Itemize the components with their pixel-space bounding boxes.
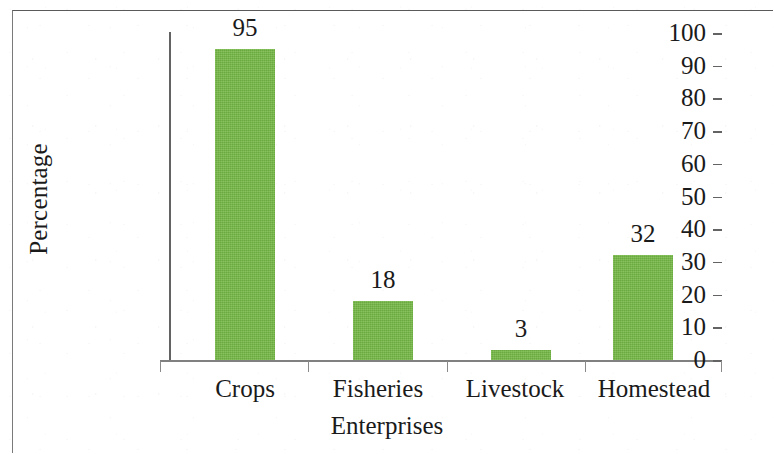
y-tick-mark xyxy=(713,98,722,100)
x-tick-mark-start xyxy=(160,361,161,372)
bar-fisheries[interactable] xyxy=(353,301,413,360)
bar-chart: Percentage 100 90 80 70 60 50 40 xyxy=(0,0,774,454)
x-category-label-homestead: Homestead xyxy=(580,374,728,404)
x-tick-mark-2 xyxy=(447,361,448,372)
y-tick-mark xyxy=(713,197,722,199)
x-tick-mark-1 xyxy=(308,361,309,372)
y-tick-mark xyxy=(713,262,722,264)
y-tick-mark xyxy=(713,33,722,35)
bar-value-livestock: 3 xyxy=(491,315,551,343)
x-category-label-crops: Crops xyxy=(175,374,315,404)
y-axis-title: Percentage xyxy=(25,119,53,279)
x-category-label-fisheries: Fisheries xyxy=(308,374,448,404)
y-tick-label: 70 xyxy=(646,116,706,146)
bar-crops[interactable] xyxy=(215,49,275,360)
bar-value-fisheries: 18 xyxy=(353,266,413,294)
y-tick-mark xyxy=(713,229,722,231)
y-tick-label: 100 xyxy=(646,18,706,48)
x-axis-line xyxy=(160,360,722,362)
x-axis-title: Enterprises xyxy=(0,412,774,440)
y-tick-mark xyxy=(713,327,722,329)
y-tick-mark xyxy=(713,131,722,133)
x-tick-mark-end xyxy=(721,361,722,372)
bar-homestead[interactable] xyxy=(613,255,673,360)
y-tick-label: 60 xyxy=(646,149,706,179)
y-tick-label: 90 xyxy=(646,51,706,81)
y-tick-label: 80 xyxy=(646,83,706,113)
bar-livestock[interactable] xyxy=(491,350,551,360)
y-tick-mark xyxy=(713,295,722,297)
y-tick-mark xyxy=(713,164,722,166)
plot-area: 100 90 80 70 60 50 40 30 xyxy=(170,33,722,360)
x-category-label-livestock: Livestock xyxy=(445,374,585,404)
y-tick-mark xyxy=(713,66,722,68)
bar-value-homestead: 32 xyxy=(613,220,673,248)
bar-value-crops: 95 xyxy=(215,14,275,42)
x-tick-mark-3 xyxy=(585,361,586,372)
y-tick-label: 50 xyxy=(646,182,706,212)
